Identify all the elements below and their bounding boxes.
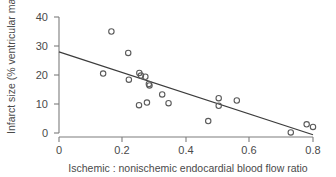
- regression-line: [59, 52, 313, 135]
- x-tick-label-0.8: 0.8: [305, 144, 320, 156]
- y-tick-label-30: 30: [36, 40, 48, 52]
- y-axis-ticks: [54, 17, 59, 133]
- x-tick-label-0.6: 0.6: [241, 144, 256, 156]
- data-point: [100, 71, 105, 76]
- x-axis-ticks: [59, 137, 313, 142]
- x-axis-title: Ischemic : nonischemic endocardial blood…: [68, 162, 307, 174]
- data-point: [144, 100, 149, 105]
- data-point: [126, 50, 131, 55]
- x-axis-tick-labels: 0 0.2 0.4 0.6 0.8: [56, 144, 321, 156]
- data-point: [109, 29, 114, 34]
- data-point: [288, 130, 293, 135]
- data-point: [304, 122, 309, 127]
- data-point: [166, 100, 171, 105]
- chart-canvas: 0 10 20 30 40 Infarct size (% ventricula…: [0, 0, 336, 177]
- y-axis: 0 10 20 30 40 Infarct size (% ventricula…: [5, 0, 59, 139]
- scatter-plot-figure: 0 10 20 30 40 Infarct size (% ventricula…: [0, 0, 336, 177]
- data-point: [310, 124, 315, 129]
- data-point: [159, 92, 164, 97]
- x-axis: 0 0.2 0.4 0.6 0.8 Ischemic : nonischemic…: [56, 137, 321, 174]
- y-axis-tick-labels: 0 10 20 30 40: [36, 11, 48, 139]
- data-point: [206, 118, 211, 123]
- y-tick-label-20: 20: [36, 69, 48, 81]
- y-tick-label-40: 40: [36, 11, 48, 23]
- y-tick-label-0: 0: [42, 127, 48, 139]
- x-tick-label-0.2: 0.2: [114, 144, 129, 156]
- x-tick-label-0: 0: [56, 144, 62, 156]
- data-point: [234, 98, 239, 103]
- data-point: [216, 96, 221, 101]
- y-tick-label-10: 10: [36, 98, 48, 110]
- data-point: [126, 77, 131, 82]
- data-point: [136, 102, 141, 107]
- data-points-layer: [100, 29, 315, 135]
- y-axis-title: Infarct size (% ventricular mass): [5, 0, 17, 134]
- x-tick-label-0.4: 0.4: [178, 144, 193, 156]
